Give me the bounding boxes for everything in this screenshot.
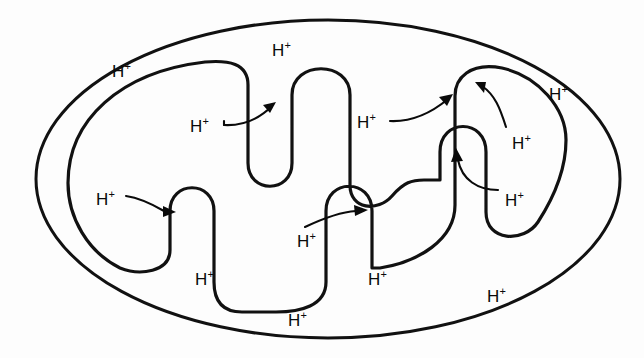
proton-label-h-right-lower: H+ bbox=[505, 192, 524, 209]
proton-label-h-top-left: H+ bbox=[112, 63, 131, 80]
proton-label-h-crista-left: H+ bbox=[195, 271, 214, 288]
proton-label-h-left-lower-source: H+ bbox=[96, 191, 115, 208]
mitochondrion-figure: H+ H+ H+ H+ H+ H+ H+ H+ H+ H+ H+ H+ H+ bbox=[0, 0, 644, 358]
arrow-mid-upper bbox=[390, 94, 453, 121]
proton-label-h-top-right: H+ bbox=[549, 86, 568, 103]
inner-membrane bbox=[68, 61, 566, 312]
proton-label-h-mid-source: H+ bbox=[357, 114, 376, 131]
proton-label-h-left-upper-source: H+ bbox=[190, 118, 209, 135]
mitochondrion-diagram-svg bbox=[0, 0, 644, 358]
arrow-left-lower bbox=[126, 196, 176, 217]
arrow-bottom-mid bbox=[305, 205, 368, 227]
proton-label-h-bottom-source: H+ bbox=[297, 233, 316, 250]
proton-label-h-top-center: H+ bbox=[272, 42, 291, 59]
proton-label-h-right-upper: H+ bbox=[512, 135, 531, 152]
arrow-right-lower bbox=[451, 148, 498, 190]
proton-label-h-crista-right: H+ bbox=[368, 271, 387, 288]
arrow-left-upper bbox=[224, 102, 276, 125]
proton-label-h-bottom-center: H+ bbox=[288, 312, 307, 329]
proton-label-h-bottom-right: H+ bbox=[487, 288, 506, 305]
arrow-right-upper bbox=[475, 82, 506, 127]
